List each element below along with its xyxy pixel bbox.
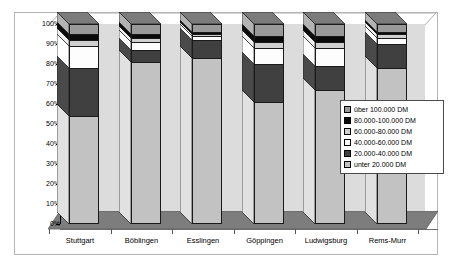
- legend-swatch-icon: [344, 161, 351, 168]
- x-axis-line: [60, 229, 438, 230]
- x-axis-tick-mark: [172, 229, 173, 234]
- bar-segment: [377, 34, 407, 38]
- x-axis-tick-mark: [111, 229, 112, 234]
- legend-item[interactable]: über 100.000 DM: [344, 104, 440, 115]
- legend-item[interactable]: 40.000-60.000 DM: [344, 137, 440, 148]
- legend-swatch-icon: [344, 128, 351, 135]
- legend-swatch-icon: [344, 106, 351, 113]
- legend-item[interactable]: 80.000-100.000 DM: [344, 115, 440, 126]
- legend-item[interactable]: unter 20.000 DM: [344, 159, 440, 170]
- bar-segment: [377, 32, 407, 34]
- legend-item-label: 40.000-60.000 DM: [354, 139, 412, 147]
- legend-item-label: über 100.000 DM: [354, 106, 408, 114]
- chart-frame: 100%90%80%70%60%50%40%30%20%10%0% Stuttg…: [14, 12, 438, 255]
- bar-segment: [377, 24, 407, 32]
- chart-container: 100%90%80%70%60%50%40%30%20%10%0% Stuttg…: [0, 0, 453, 269]
- x-axis-tick-mark: [295, 229, 296, 234]
- bar-segment: [377, 44, 407, 68]
- legend-swatch-icon: [344, 117, 351, 124]
- bar-top-surface: [365, 12, 407, 24]
- legend-swatch-icon: [344, 150, 351, 157]
- x-axis-category-label: Ludwigsburg: [296, 237, 356, 245]
- legend-item-label: 80.000-100.000 DM: [354, 117, 416, 125]
- chart-legend: über 100.000 DM80.000-100.000 DM60.000-8…: [340, 100, 444, 174]
- x-axis-tick-mark: [357, 229, 358, 234]
- x-axis-category-label: Göppingen: [235, 237, 295, 245]
- x-axis-category-label: Rems-Murr: [358, 237, 418, 245]
- legend-item-label: 60.000-80.000 DM: [354, 128, 412, 136]
- x-axis-tick-mark: [418, 229, 419, 234]
- legend-item[interactable]: 60.000-80.000 DM: [344, 126, 440, 137]
- legend-item-label: 20.000-40.000 DM: [354, 150, 412, 158]
- x-axis-category-label: Böblingen: [112, 237, 172, 245]
- legend-item-label: unter 20.000 DM: [354, 161, 406, 169]
- bar-segment: [377, 38, 407, 44]
- x-axis-tick-mark: [49, 229, 50, 234]
- x-axis-category-label: Stuttgart: [50, 237, 110, 245]
- legend-swatch-icon: [344, 139, 351, 146]
- legend-item[interactable]: 20.000-40.000 DM: [344, 148, 440, 159]
- plot-area: 100%90%80%70%60%50%40%30%20%10%0% Stuttg…: [15, 13, 439, 256]
- x-axis-category-label: Esslingen: [173, 237, 233, 245]
- x-axis-tick-mark: [234, 229, 235, 234]
